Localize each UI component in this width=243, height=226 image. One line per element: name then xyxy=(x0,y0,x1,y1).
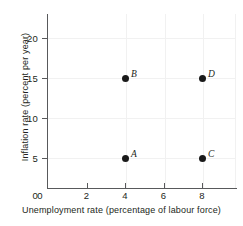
x-tick-6 xyxy=(164,183,165,189)
x-ticklabel-6: 6 xyxy=(154,190,174,201)
y-axis-line xyxy=(47,14,48,189)
x-ticklabel-0: 0 xyxy=(30,190,50,201)
scatter-chart: 20 15 10 5 0 0 2 4 6 8 ABCD Unemployment… xyxy=(0,0,243,226)
data-point-c xyxy=(199,155,206,162)
data-point-label-b: B xyxy=(131,69,137,79)
y-tick-15 xyxy=(42,78,48,79)
x-tick-2 xyxy=(87,183,88,189)
data-point-label-d: D xyxy=(208,69,215,79)
plot-area xyxy=(48,14,236,188)
data-point-label-a: A xyxy=(131,149,137,159)
data-point-label-c: C xyxy=(208,149,214,159)
x-tick-4 xyxy=(125,183,126,189)
gridline-horizontal-10 xyxy=(48,118,236,119)
y-axis-title: Inflation rate (percent per year) xyxy=(20,12,30,182)
x-ticklabel-2: 2 xyxy=(77,190,97,201)
gridline-vertical-8 xyxy=(235,14,236,188)
gridline-vertical-4 xyxy=(165,14,166,188)
data-point-b xyxy=(122,75,129,82)
y-tick-20 xyxy=(42,38,48,39)
x-ticklabel-8: 8 xyxy=(192,190,212,201)
gridline-horizontal-20 xyxy=(48,38,236,39)
x-tick-8 xyxy=(202,183,203,189)
x-ticklabel-4: 4 xyxy=(115,190,135,201)
y-tick-10 xyxy=(42,118,48,119)
x-axis-line xyxy=(47,188,237,189)
data-point-d xyxy=(199,75,206,82)
y-tick-5 xyxy=(42,158,48,159)
data-point-a xyxy=(122,155,129,162)
gridline-vertical-2 xyxy=(126,14,127,188)
x-axis-title: Unemployment rate (percentage of labour … xyxy=(0,205,243,215)
gridline-vertical-6 xyxy=(203,14,204,188)
